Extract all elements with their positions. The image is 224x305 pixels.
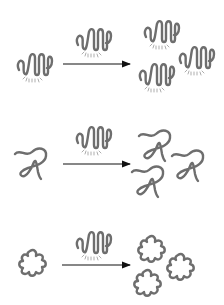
product-loop-shape	[139, 131, 170, 161]
product-flower-shape	[134, 270, 161, 296]
product-flower-shape	[167, 254, 194, 280]
substrate-flower-shape	[19, 250, 46, 276]
catalyst-coil-shape	[77, 232, 111, 260]
catalyst-coil-shape	[77, 127, 111, 155]
product-loop-shape	[172, 151, 203, 181]
product-loop-shape	[132, 167, 163, 197]
product-coil-shape	[145, 21, 179, 49]
product-coil-shape	[180, 47, 214, 75]
catalyst-coil-shape	[77, 29, 111, 57]
product-coil-shape	[140, 64, 174, 92]
product-flower-shape	[138, 236, 165, 262]
substrate-coil-shape	[18, 54, 52, 82]
row-3	[19, 232, 194, 296]
row-1	[18, 21, 214, 92]
substrate-loop-shape	[15, 149, 46, 179]
diagram-canvas	[0, 0, 224, 305]
row-2	[15, 127, 203, 197]
